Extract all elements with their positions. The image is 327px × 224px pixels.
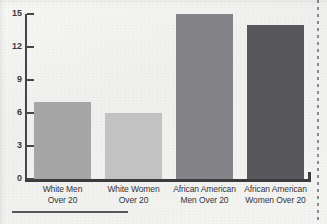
x-axis-label-line: White Women (94, 184, 173, 195)
scan-edge-shadow-top (0, 0, 327, 6)
x-axis-label: African AmericanMen Over 20 (165, 184, 244, 206)
footnote-rule (12, 211, 128, 213)
x-axis-label-line: Men Over 20 (165, 195, 244, 206)
bar-chart: 03691215 White MenOver 20White WomenOver… (0, 0, 327, 224)
x-axis-label-line: African American (165, 184, 244, 195)
bar (105, 113, 162, 179)
bar (34, 102, 91, 179)
x-axis-label-line: Over 20 (23, 195, 102, 206)
x-axis-label: African AmericanWomen Over 20 (236, 184, 315, 206)
x-axis-label-line: Women Over 20 (236, 195, 315, 206)
scan-edge-shadow-left (0, 0, 5, 224)
bar (247, 25, 304, 179)
x-axis-label-line: White Men (23, 184, 102, 195)
x-axis-label: White MenOver 20 (23, 184, 102, 206)
bar (176, 14, 233, 179)
plot-area (27, 14, 311, 179)
x-axis-label-line: Over 20 (94, 195, 173, 206)
x-axis-label-line: African American (236, 184, 315, 195)
x-axis-label: White WomenOver 20 (94, 184, 173, 206)
x-axis-line (25, 179, 311, 182)
page-edge-perforation-icon (317, 0, 319, 224)
